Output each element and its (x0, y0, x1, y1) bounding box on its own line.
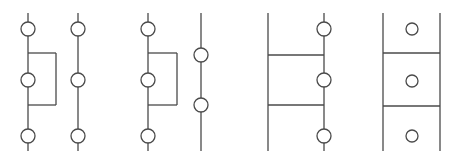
node-circle (21, 22, 35, 36)
figure-background (0, 0, 459, 165)
node-circle (406, 75, 418, 87)
node-circle (406, 23, 418, 35)
node-circle (141, 73, 155, 87)
ladder-diagram-svg (0, 0, 459, 165)
node-circle (317, 129, 331, 143)
node-circle (21, 73, 35, 87)
figure-canvas (0, 0, 459, 165)
node-circle (406, 130, 418, 142)
node-circle (71, 129, 85, 143)
node-circle (141, 22, 155, 36)
node-circle (71, 22, 85, 36)
node-circle (317, 73, 331, 87)
node-circle (194, 98, 208, 112)
node-circle (317, 22, 331, 36)
node-circle (141, 129, 155, 143)
node-circle (21, 129, 35, 143)
node-circle (194, 48, 208, 62)
node-circle (71, 73, 85, 87)
